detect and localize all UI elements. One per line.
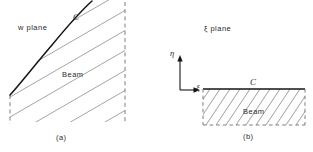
panel-b-drawing [156,0,313,152]
figure-conformal-mapping: w plane C Beam (a) ξ plane η ξ C Beam (b… [0,0,313,152]
panel-xi-plane [156,0,313,152]
region-label-beam-b: Beam [243,108,265,116]
axis-label-eta: η [170,49,175,58]
caption-a: (a) [56,133,66,142]
caption-b: (b) [243,132,253,141]
region-label-beam-a: Beam [62,71,84,79]
eta-axis-arrowhead [177,55,182,62]
curve-label-c-b: C [250,78,256,87]
curve-c-a [10,1,92,95]
axis-label-xi: ξ [196,84,200,93]
curve-label-c-a: C [73,13,79,22]
label-w-plane: w plane [18,24,47,32]
label-xi-plane: ξ plane [204,25,231,33]
